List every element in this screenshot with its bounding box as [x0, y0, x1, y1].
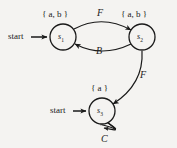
set-label-s1: { a, b } [42, 10, 68, 19]
diagram-vector-layer [0, 0, 177, 148]
set-label-s3: { a } [91, 84, 108, 93]
transition-label-f-top: F [97, 8, 103, 18]
transition-s2-to-s3 [113, 51, 142, 104]
transition-s2-to-s1 [75, 44, 131, 51]
start-label-s1: start [8, 32, 24, 41]
transition-s1-to-s2 [74, 22, 131, 30]
transition-label-c-loop: C [101, 134, 108, 144]
transition-label-b-bottom: B [96, 46, 102, 56]
transition-label-f-diagonal: F [140, 70, 146, 80]
state-label-s1: s1 [58, 33, 64, 43]
start-label-s3: start [50, 106, 66, 115]
state-label-s3: s3 [97, 107, 103, 117]
state-label-s2: s2 [137, 33, 143, 43]
state-diagram-canvas: { a, b } { a, b } { a } s1 s2 s3 start s… [0, 0, 177, 148]
set-label-s2: { a, b } [121, 10, 147, 19]
